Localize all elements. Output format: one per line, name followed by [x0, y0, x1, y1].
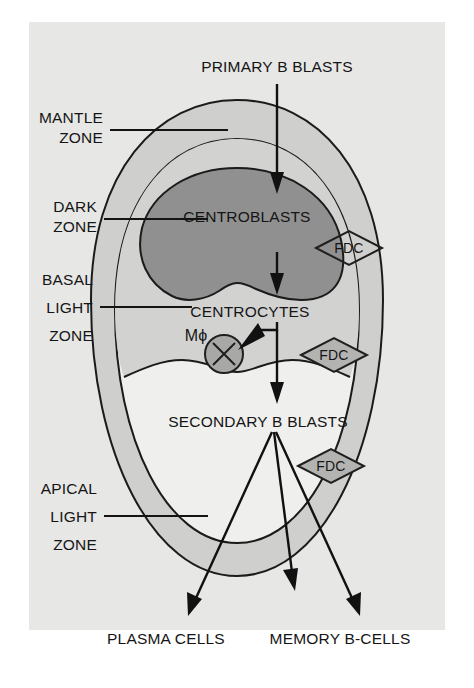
label-centroblasts: CENTROBLASTS: [183, 208, 310, 225]
fdc-apical-zone-label: FDC: [316, 458, 345, 474]
label-primary-b-blasts: PRIMARY B BLASTS: [201, 58, 353, 75]
basal-light-zone-line-3: ZONE: [49, 327, 93, 344]
apical-light-zone-line-3: ZONE: [53, 536, 97, 553]
label-centrocytes: CENTROCYTES: [190, 303, 309, 320]
label-memory-b-cells: MEMORY B-CELLS: [270, 630, 411, 647]
label-dark-zone: DARK ZONE: [53, 198, 97, 235]
label-plasma-cells: PLASMA CELLS: [107, 630, 225, 647]
output-labels: PLASMA CELLS MEMORY B-CELLS: [107, 630, 410, 647]
germinal-center-diagram: FDC FDC FDC Mϕ: [0, 0, 474, 688]
mantle-zone-line-2: ZONE: [59, 129, 103, 146]
fdc-basal-zone-label: FDC: [319, 347, 348, 363]
macrophage-label: Mϕ: [185, 327, 207, 344]
basal-light-zone-line-1: BASAL: [42, 271, 93, 288]
label-secondary-b-blasts: SECONDARY B BLASTS: [168, 413, 348, 430]
label-mantle-zone: MANTLE ZONE: [39, 109, 103, 146]
basal-light-zone-line-2: LIGHT: [46, 299, 93, 316]
mantle-zone-line-1: MANTLE: [39, 109, 103, 126]
zone-shapes: [91, 100, 383, 576]
apical-light-zone-line-1: APICAL: [41, 480, 98, 497]
figure-root: FDC FDC FDC Mϕ: [0, 0, 474, 688]
dark-zone-line-1: DARK: [53, 198, 97, 215]
label-basal-light-zone: BASAL LIGHT ZONE: [42, 271, 93, 344]
dark-zone-line-2: ZONE: [53, 218, 97, 235]
label-apical-light-zone: APICAL LIGHT ZONE: [41, 480, 98, 553]
fdc-dark-zone-label: FDC: [334, 240, 363, 256]
apical-light-zone-line-2: LIGHT: [50, 508, 97, 525]
